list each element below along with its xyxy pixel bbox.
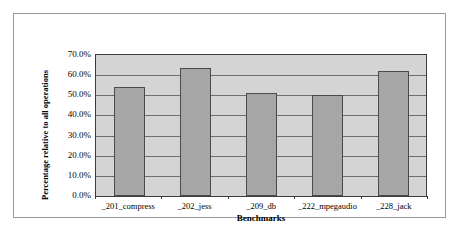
y-axis-tick-label: 60.0% <box>47 70 91 79</box>
bar-slot <box>162 55 228 196</box>
x-axis-tick-mark <box>161 196 162 199</box>
x-axis-tick-mark <box>427 196 428 199</box>
bar[interactable] <box>378 71 409 196</box>
x-axis-tick-label: _228_jack <box>361 200 427 214</box>
x-axis-tick-mark <box>228 196 229 199</box>
bar-series <box>96 55 426 196</box>
plot-area <box>95 54 427 197</box>
y-axis-tick-labels: 70.0%60.0%50.0%40.0%30.0%20.0%10.0%0.0% <box>47 54 91 195</box>
bar[interactable] <box>114 87 145 196</box>
y-axis-tick-label: 50.0% <box>47 90 91 99</box>
bar-slot <box>96 55 162 196</box>
x-axis-tick-label: _202_jess <box>161 200 227 214</box>
bar[interactable] <box>180 68 211 196</box>
bar-slot <box>228 55 294 196</box>
x-axis-tick-label: _222_mpegaudio <box>294 200 360 214</box>
y-axis-tick-label: 40.0% <box>47 110 91 119</box>
chart-frame: Percentage relative to all operations 70… <box>13 13 446 218</box>
bar-slot <box>294 55 360 196</box>
chart-figure: Percentage relative to all operations 70… <box>0 0 460 235</box>
x-axis-title: Benchmarks <box>95 213 427 224</box>
bar-slot <box>360 55 426 196</box>
x-axis-tick-labels: _201_compress_202_jess_209_db_222_mpegau… <box>95 200 427 214</box>
x-axis-tick-mark <box>361 196 362 199</box>
bar[interactable] <box>246 93 277 196</box>
x-axis-tick-label: _209_db <box>228 200 294 214</box>
x-axis-tick-label: _201_compress <box>95 200 161 214</box>
x-axis-tick-mark <box>294 196 295 199</box>
bar[interactable] <box>312 95 343 196</box>
y-axis-tick-label: 30.0% <box>47 131 91 140</box>
y-axis-tick-label: 20.0% <box>47 151 91 160</box>
x-axis-tick-mark <box>95 196 96 199</box>
y-axis-tick-label: 10.0% <box>47 171 91 180</box>
y-axis-tick-label: 70.0% <box>47 50 91 59</box>
y-axis-tick-label: 0.0% <box>47 191 91 200</box>
